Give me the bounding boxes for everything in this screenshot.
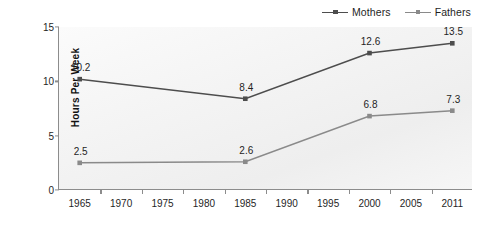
legend-line-marker-icon: [405, 8, 431, 17]
chart-legend: Mothers Fathers: [322, 4, 486, 20]
data-point-marker: [450, 41, 455, 46]
legend-marker-fathers: [416, 10, 421, 15]
legend-line-marker-icon: [322, 8, 348, 17]
data-point-value: 10.2: [71, 62, 90, 73]
x-tick-label: 2011: [442, 198, 464, 209]
legend-label-mothers: Mothers: [352, 7, 391, 18]
data-point-value: 2.5: [74, 146, 88, 157]
data-point-marker: [77, 77, 82, 82]
y-tick-label: 10: [43, 76, 54, 87]
data-point-marker: [450, 108, 455, 113]
y-tick-label: 0: [48, 185, 54, 196]
data-point-value: 12.6: [361, 36, 380, 47]
data-point-marker: [367, 114, 372, 119]
x-tick-label: 1980: [193, 198, 215, 209]
y-tick-label: 5: [48, 130, 54, 141]
x-tick-label: 2000: [358, 198, 380, 209]
series-line-mothers: [80, 43, 453, 98]
series-line-fathers: [80, 111, 453, 163]
data-point-value: 2.6: [239, 145, 253, 156]
legend-marker-mothers: [333, 10, 338, 15]
legend-item-mothers[interactable]: Mothers: [322, 7, 391, 18]
legend-label-fathers: Fathers: [435, 7, 471, 18]
x-tick-label: 1990: [276, 198, 298, 209]
x-tick-label: 1975: [151, 198, 173, 209]
legend-item-fathers[interactable]: Fathers: [405, 7, 471, 18]
line-chart: Mothers Fathers Hours Per Week 051015 19…: [0, 0, 490, 230]
plot-area: Hours Per Week 051015 196519701975198019…: [58, 27, 472, 190]
data-point-marker: [77, 161, 82, 166]
data-point-value: 7.3: [446, 94, 460, 105]
data-point-value: 13.5: [444, 26, 463, 37]
series-lines: [59, 27, 473, 190]
data-point-value: 6.8: [364, 99, 378, 110]
data-point-marker: [243, 96, 248, 101]
data-point-marker: [367, 51, 372, 56]
x-tick-label: 1970: [110, 198, 132, 209]
x-tick-label: 2005: [400, 198, 422, 209]
data-point-marker: [243, 159, 248, 164]
data-point-value: 8.4: [239, 82, 253, 93]
y-tick-label: 15: [43, 22, 54, 33]
x-tick-label: 1965: [69, 198, 91, 209]
x-tick-label: 1985: [234, 198, 256, 209]
x-tick-label: 1995: [317, 198, 339, 209]
